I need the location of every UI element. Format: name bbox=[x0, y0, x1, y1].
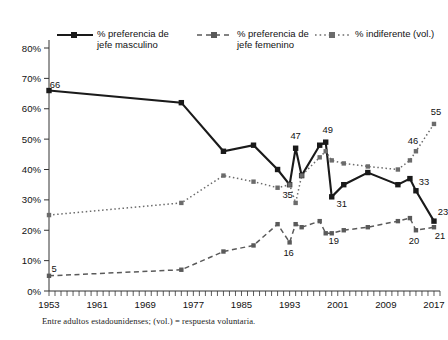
data-label-masculino-31: 31 bbox=[337, 198, 347, 209]
data-point-femenino bbox=[324, 231, 328, 235]
data-point-indiferente bbox=[275, 186, 279, 190]
data-point-femenino bbox=[251, 243, 255, 247]
data-point-indiferente bbox=[47, 213, 51, 217]
legend-item-indiferente: % indiferente (vol.) bbox=[355, 28, 434, 39]
legend-label-indiferente: % indiferente (vol.) bbox=[355, 28, 434, 39]
legend-key-masculino bbox=[57, 31, 93, 39]
data-point-masculino bbox=[275, 167, 280, 172]
data-label-femenino-16: 16 bbox=[283, 247, 293, 258]
data-point-indiferente bbox=[432, 122, 436, 126]
data-point-indiferente bbox=[317, 155, 321, 159]
data-label-masculino-49: 49 bbox=[322, 124, 332, 135]
data-point-femenino bbox=[342, 228, 346, 232]
data-point-femenino bbox=[275, 222, 279, 226]
data-point-masculino bbox=[413, 188, 418, 193]
data-label-masculino-47: 47 bbox=[290, 130, 300, 141]
data-point-masculino bbox=[323, 139, 328, 144]
data-point-femenino bbox=[293, 222, 297, 226]
data-point-masculino bbox=[251, 143, 256, 148]
x-tick-label: 2001 bbox=[327, 299, 348, 310]
series-line-indiferente bbox=[49, 124, 434, 215]
x-tick-label: 1993 bbox=[279, 299, 300, 310]
data-point-masculino bbox=[407, 176, 412, 181]
data-point-indiferente bbox=[414, 149, 418, 153]
data-point-femenino bbox=[432, 225, 436, 229]
series-line-masculino bbox=[49, 91, 434, 222]
legend-item-femenino: % preferencia de jefe femenino bbox=[237, 28, 309, 50]
x-tick-label: 1953 bbox=[38, 299, 59, 310]
legend-label-masculino: % preferencia de jefe masculino bbox=[97, 28, 169, 50]
data-point-indiferente bbox=[324, 149, 328, 153]
x-tick-label: 1969 bbox=[135, 299, 156, 310]
data-point-indiferente bbox=[408, 158, 412, 162]
legend-label-femenino: % preferencia de jefe femenino bbox=[237, 28, 309, 50]
data-point-femenino bbox=[408, 216, 412, 220]
y-tick-label: 10% bbox=[22, 255, 42, 266]
data-label-femenino-20: 20 bbox=[409, 235, 419, 246]
data-point-indiferente bbox=[342, 161, 346, 165]
data-point-femenino bbox=[179, 268, 183, 272]
data-label-indiferente-46: 46 bbox=[408, 135, 418, 146]
x-tick-label: 1985 bbox=[231, 299, 252, 310]
data-point-masculino bbox=[365, 170, 370, 175]
data-point-femenino bbox=[317, 219, 321, 223]
data-point-indiferente bbox=[287, 182, 291, 186]
data-label-femenino-19: 19 bbox=[328, 235, 338, 246]
x-tick-label: 2009 bbox=[375, 299, 396, 310]
data-point-femenino bbox=[414, 228, 418, 232]
x-tick-label: 1977 bbox=[183, 299, 204, 310]
data-point-masculino bbox=[179, 100, 184, 105]
chart-legend: % preferencia de jefe masculino % prefer… bbox=[0, 12, 448, 46]
data-point-indiferente bbox=[366, 164, 370, 168]
y-tick-label: 50% bbox=[22, 134, 42, 145]
data-label-masculino-33: 33 bbox=[419, 176, 429, 187]
data-label-indiferente-55: 55 bbox=[431, 106, 441, 117]
data-point-femenino bbox=[287, 240, 291, 244]
y-tick-label: 20% bbox=[22, 225, 42, 236]
data-point-indiferente bbox=[293, 201, 297, 205]
data-label-masculino-66: 66 bbox=[50, 79, 60, 90]
data-point-masculino bbox=[329, 194, 334, 199]
chart-caption: Entre adultos estadounidenses; (vol.) = … bbox=[42, 316, 255, 326]
data-point-femenino bbox=[47, 274, 51, 278]
x-tick-label: 1961 bbox=[86, 299, 107, 310]
data-point-femenino bbox=[299, 225, 303, 229]
series-line-femenino bbox=[49, 218, 434, 276]
data-label-femenino-5: 5 bbox=[51, 263, 56, 274]
y-tick-label: 40% bbox=[22, 164, 42, 175]
data-label-masculino-23: 23 bbox=[438, 206, 448, 217]
data-point-indiferente bbox=[299, 173, 303, 177]
y-tick-label: 70% bbox=[22, 73, 42, 84]
y-tick-label: 30% bbox=[22, 194, 42, 205]
data-point-masculino bbox=[221, 149, 226, 154]
legend-key-indiferente bbox=[315, 31, 351, 39]
data-point-masculino bbox=[293, 146, 298, 151]
data-label-masculino-35: 35 bbox=[282, 189, 292, 200]
data-label-femenino-21: 21 bbox=[435, 230, 445, 241]
data-point-masculino bbox=[317, 143, 322, 148]
data-point-femenino bbox=[396, 219, 400, 223]
legend-key-femenino bbox=[197, 31, 233, 39]
y-tick-label: 60% bbox=[22, 103, 42, 114]
data-point-masculino bbox=[395, 182, 400, 187]
data-point-indiferente bbox=[221, 173, 225, 177]
legend-item-masculino: % preferencia de jefe masculino bbox=[97, 28, 169, 50]
data-point-femenino bbox=[366, 225, 370, 229]
chart-container: % preferencia de jefe masculino % prefer… bbox=[0, 0, 448, 340]
data-point-indiferente bbox=[251, 179, 255, 183]
data-point-masculino bbox=[341, 182, 346, 187]
data-point-femenino bbox=[221, 249, 225, 253]
x-tick-label: 2017 bbox=[423, 299, 444, 310]
data-point-indiferente bbox=[396, 167, 400, 171]
chart-plot: 0%10%20%30%40%50%60%70%80%19531961196919… bbox=[0, 0, 448, 316]
data-point-indiferente bbox=[330, 158, 334, 162]
y-tick-label: 0% bbox=[27, 286, 41, 297]
data-point-masculino bbox=[431, 218, 436, 223]
data-point-indiferente bbox=[179, 201, 183, 205]
